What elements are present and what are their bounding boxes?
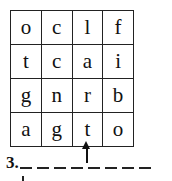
grid-row: o c l f — [11, 11, 134, 45]
answer-blank[interactable] — [105, 167, 117, 169]
answer-blank[interactable] — [139, 167, 151, 169]
grid-cell: b — [103, 79, 134, 113]
grid-row: t c a i — [11, 45, 134, 79]
answer-blank[interactable] — [54, 167, 66, 169]
grid-cell: a — [72, 45, 103, 79]
grid-cell: i — [103, 45, 134, 79]
grid-cell: o — [11, 11, 42, 45]
answer-blank[interactable] — [20, 167, 32, 169]
grid-cell: r — [72, 79, 103, 113]
letter-grid: o c l f t c a i g n r b a g t o — [10, 10, 134, 147]
grid-cell: l — [72, 11, 103, 45]
answer-blank[interactable] — [88, 167, 100, 169]
arrow-shaft — [86, 147, 88, 163]
up-arrow-icon — [86, 141, 88, 162]
grid-cell: c — [41, 45, 72, 79]
first-letter-marker — [22, 176, 24, 181]
grid-cell: o — [103, 113, 134, 147]
grid-cell: a — [11, 113, 42, 147]
grid-cell: n — [41, 79, 72, 113]
grid-cell: g — [41, 113, 72, 147]
grid-cell: t — [11, 45, 42, 79]
grid-row: g n r b — [11, 79, 134, 113]
grid-cell: c — [41, 11, 72, 45]
question-number: 3. — [6, 153, 19, 173]
grid-cell: g — [11, 79, 42, 113]
grid-cell: f — [103, 11, 134, 45]
answer-blank[interactable] — [122, 167, 134, 169]
answer-blank[interactable] — [37, 167, 49, 169]
answer-blank[interactable] — [71, 167, 83, 169]
grid-row: a g t o — [11, 113, 134, 147]
answer-blanks[interactable] — [20, 167, 151, 169]
